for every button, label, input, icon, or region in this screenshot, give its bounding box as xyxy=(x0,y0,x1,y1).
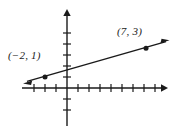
point-marker-b xyxy=(144,46,149,51)
x-axis-arrow-icon xyxy=(161,84,168,91)
point-label-a: (−2, 1) xyxy=(8,49,41,61)
coordinate-plane xyxy=(0,0,171,136)
point-label-b: (7, 3) xyxy=(117,25,142,37)
y-axis-arrow-icon xyxy=(63,9,70,16)
point-marker-a xyxy=(43,75,48,80)
math-figure: (−2, 1) (7, 3) xyxy=(0,0,171,136)
